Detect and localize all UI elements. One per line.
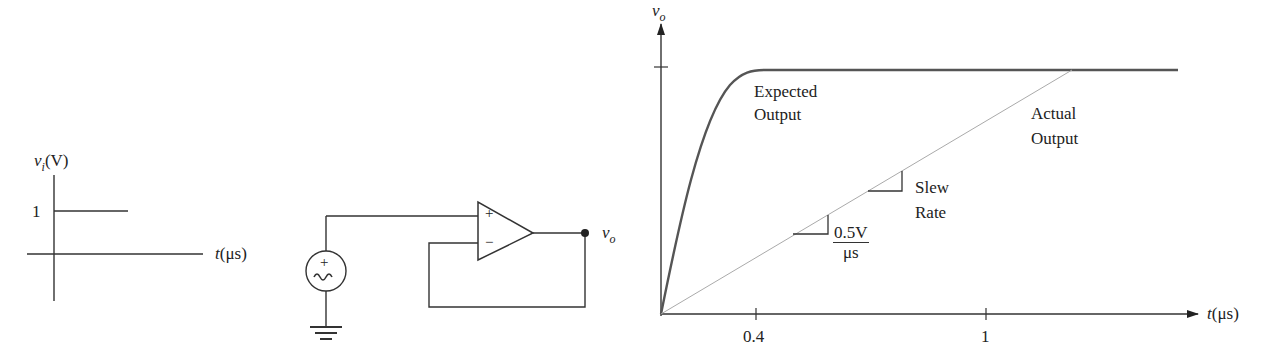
ground-icon: [310, 327, 342, 339]
actual-line1: Actual: [1031, 101, 1078, 126]
opamp-plus-label: +: [485, 206, 493, 221]
expected-line2: Output: [754, 103, 817, 126]
output-plot: [654, 24, 1198, 320]
slew-denominator: μs: [833, 243, 869, 261]
expected-output-label: Expected Output: [754, 80, 817, 126]
expected-line1: Expected: [754, 80, 817, 103]
circuit-output-label: vo: [602, 224, 616, 241]
x-tick-label-1: 1: [981, 328, 990, 345]
actual-output-line: [661, 70, 1072, 314]
ac-wave-icon: [314, 274, 332, 280]
t-unit: (μs): [1212, 304, 1239, 323]
slew-line1: Slew: [915, 175, 949, 200]
slew-rate-label: Slew Rate: [915, 175, 949, 225]
feedback-wire: [429, 233, 585, 307]
input-plot: [27, 175, 203, 301]
diagram-canvas: [0, 0, 1282, 362]
output-y-axis-label: vo: [652, 2, 666, 19]
x-tick-label-0.4: 0.4: [743, 328, 764, 345]
vo-axis-var: v: [652, 1, 660, 20]
output-node: [581, 229, 589, 237]
y-unit: (V): [45, 151, 69, 170]
vo-var: v: [602, 223, 610, 242]
output-x-axis-label: t(μs): [1207, 305, 1239, 322]
opamp-minus-label: −: [485, 235, 493, 250]
vo-axis-sub: o: [660, 10, 666, 24]
input-x-axis-label: t(μs): [215, 245, 247, 262]
slew-numerator: 0.5V: [833, 224, 869, 243]
actual-output-label: Actual Output: [1031, 101, 1078, 151]
voltage-follower-circuit: [306, 202, 589, 339]
actual-line2: Output: [1031, 126, 1078, 151]
slew-line2: Rate: [915, 200, 949, 225]
source-plus-sign: +: [320, 255, 328, 270]
slew-rate-value: 0.5V μs: [833, 224, 869, 261]
input-y-axis-label: vi(V): [34, 152, 69, 169]
x-unit: (μs): [220, 244, 247, 263]
y-sub: i: [42, 160, 45, 174]
y-var: v: [34, 151, 42, 170]
vo-sub: o: [610, 232, 616, 246]
input-y-tick-label: 1: [32, 203, 41, 220]
slew-fraction: 0.5V μs: [833, 224, 869, 261]
